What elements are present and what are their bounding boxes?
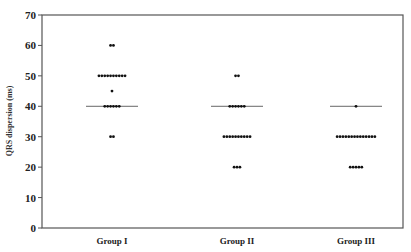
data-dot (109, 105, 112, 108)
data-dot (339, 135, 342, 138)
data-dot (239, 166, 242, 169)
data-dot (246, 135, 249, 138)
data-dot (336, 135, 339, 138)
data-dot (106, 74, 109, 77)
data-dot (98, 74, 101, 77)
data-dot (111, 90, 114, 93)
data-dot (353, 135, 356, 138)
dot-plot-chart: 010203040506070 QRS dispersion (ms) Grou… (0, 0, 411, 252)
y-tick-label: 40 (25, 100, 37, 112)
data-dot (365, 135, 368, 138)
data-dot (342, 135, 345, 138)
data-dot (358, 166, 361, 169)
data-dot (249, 135, 252, 138)
data-dot (106, 105, 109, 108)
data-dot (237, 135, 240, 138)
data-dot (347, 135, 350, 138)
data-dot (240, 135, 243, 138)
data-dot (225, 135, 228, 138)
data-dot (118, 105, 121, 108)
group-1-dots (86, 44, 138, 138)
data-dot (112, 105, 115, 108)
data-dot (223, 135, 226, 138)
data-dot (231, 135, 234, 138)
data-dot (228, 135, 231, 138)
data-dot (237, 74, 240, 77)
data-dot (368, 135, 371, 138)
data-dot (352, 166, 355, 169)
data-dot (236, 166, 239, 169)
data-dot (362, 135, 365, 138)
data-dot (360, 166, 363, 169)
data-dot (355, 105, 358, 108)
data-dot (355, 166, 358, 169)
data-dot (121, 74, 124, 77)
data-dot (350, 135, 353, 138)
data-dot (100, 74, 103, 77)
data-dot (237, 105, 240, 108)
data-groups (86, 44, 382, 169)
y-tick-label: 0 (31, 222, 37, 234)
data-dot (234, 105, 237, 108)
data-dot (240, 105, 243, 108)
data-dot (371, 135, 374, 138)
x-category-label: Group III (337, 236, 376, 246)
data-dot (112, 74, 115, 77)
data-dot (103, 105, 106, 108)
data-dot (109, 74, 112, 77)
data-dot (234, 74, 237, 77)
data-dot (109, 135, 112, 138)
group-3-dots (330, 105, 382, 169)
data-dot (115, 105, 118, 108)
data-dot (233, 166, 236, 169)
y-tick-label: 50 (25, 70, 37, 82)
data-dot (124, 74, 127, 77)
y-axis-ticks: 010203040506070 (25, 9, 42, 234)
data-dot (112, 135, 115, 138)
data-dot (356, 135, 359, 138)
data-dot (349, 166, 352, 169)
data-dot (109, 44, 112, 47)
data-dot (115, 74, 118, 77)
data-dot (234, 135, 237, 138)
y-tick-label: 70 (25, 9, 37, 21)
data-dot (243, 105, 246, 108)
x-axis-category-labels: Group IGroup IIGroup III (96, 236, 375, 246)
data-dot (344, 135, 347, 138)
group-2-dots (211, 74, 263, 168)
data-dot (231, 105, 234, 108)
axes (42, 15, 403, 228)
y-tick-label: 60 (25, 39, 37, 51)
y-tick-label: 10 (25, 192, 37, 204)
data-dot (359, 135, 362, 138)
data-dot (373, 135, 376, 138)
y-axis-title: QRS dispersion (ms) (5, 85, 14, 156)
x-category-label: Group II (220, 236, 255, 246)
plot-frame (42, 15, 403, 228)
y-tick-label: 30 (25, 131, 37, 143)
data-dot (112, 44, 115, 47)
y-tick-label: 20 (25, 161, 37, 173)
x-category-label: Group I (96, 236, 128, 246)
data-dot (103, 74, 106, 77)
data-dot (118, 74, 121, 77)
data-dot (243, 135, 246, 138)
data-dot (228, 105, 231, 108)
